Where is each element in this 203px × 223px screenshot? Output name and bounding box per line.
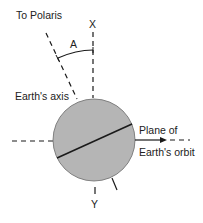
earth-tilt-diagram [0,0,203,223]
earth-axis-line-lower [112,178,117,190]
orbit-plane-arrow-head [160,137,167,143]
plane-of-label: Plane of [139,125,178,136]
angle-a-label: A [70,39,77,50]
earth-circle [53,99,135,181]
earths-orbit-label: Earth's orbit [139,147,195,158]
angle-arc [58,50,93,58]
to-polaris-label: To Polaris [16,10,62,21]
y-label: Y [91,199,98,210]
earths-axis-label: Earth's axis [15,91,69,102]
x-label: X [89,19,96,30]
